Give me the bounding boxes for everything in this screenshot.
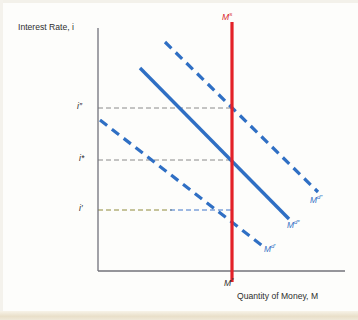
curve-label-money-demand-double-prime: Md″ <box>310 194 322 204</box>
y-tick-label-i-prime: i′ <box>79 204 83 213</box>
curve-label-money-supply: Ms <box>222 11 232 21</box>
guide-lines <box>98 108 233 210</box>
curve-label-money-demand-star: Md* <box>287 219 300 229</box>
y-tick-label-i-double-prime: i″ <box>77 102 82 111</box>
curve-label-money-demand-prime: Md′ <box>264 243 275 253</box>
y-tick-label-i-star: i* <box>79 154 84 163</box>
money-market-plot <box>0 0 358 320</box>
x-axis-title: Quantity of Money, M <box>237 292 318 301</box>
x-tick-label-m-star: M* <box>224 277 234 287</box>
figure-canvas: Interest Rate, i Quantity of Money, M i″… <box>0 0 358 320</box>
curve-money-demand-prime <box>100 120 264 247</box>
y-axis-title: Interest Rate, i <box>18 23 74 32</box>
